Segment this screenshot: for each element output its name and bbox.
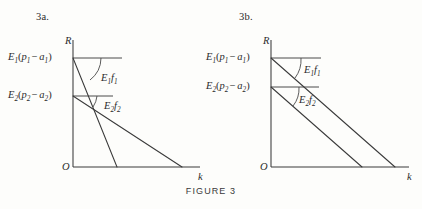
level-label-e2-3a: E2(p2−a2)	[8, 89, 52, 103]
x-axis-label-3b: k	[407, 171, 412, 182]
figure-page: 3a. R O k E1(p1−a1)	[0, 0, 422, 209]
level-e2-close-paren: )	[246, 80, 250, 91]
angle-e2f2-sub2: 2	[117, 106, 121, 114]
x-axis-label-3a: k	[198, 171, 203, 182]
level-e1-close-paren: )	[246, 51, 250, 62]
angle-e2f2-sub2: 2	[312, 100, 316, 108]
panel-3a: 3a. R O k E1(p1−a1)	[0, 0, 211, 188]
panel-3b: 3b. R O k E1(p1−a1) E2(p2−a2)	[211, 0, 422, 188]
level-e2-operator: −	[228, 80, 237, 91]
angle-label-e1f1-3b: E1f1	[304, 64, 321, 78]
angle-arc-e1f1-3a	[90, 58, 101, 80]
angle-label-e1f1-3a: E1f1	[101, 72, 118, 86]
origin-label-3a: O	[62, 161, 70, 172]
schedule-line-e2f2-3a	[73, 96, 182, 167]
level-e2-close-paren: )	[48, 89, 52, 100]
angle-e1f1-sub2: 1	[317, 70, 321, 78]
level-e1-close-paren: )	[48, 51, 52, 62]
origin-label-3b: O	[260, 161, 268, 172]
angle-label-e2f2-3a: E2f2	[104, 100, 121, 114]
y-axis-label-3b: R	[262, 35, 270, 46]
angle-e1f1-sub2: 1	[114, 78, 118, 86]
angle-arc-e1f1-3b	[295, 58, 301, 78]
level-label-e1-3a: E1(p1−a1)	[8, 51, 52, 65]
level-label-e1-3b: E1(p1−a1)	[206, 51, 250, 65]
schedule-line-e1f1-3b	[271, 58, 395, 167]
level-e2-operator: −	[30, 89, 39, 100]
figure-caption: FIGURE 3	[0, 186, 422, 196]
level-e1-operator: −	[30, 51, 39, 62]
angle-arc-e2f2-3a	[93, 96, 97, 107]
schedule-line-e2f2-3b	[271, 87, 362, 167]
angle-label-e2f2-3b: E2f2	[299, 94, 316, 108]
level-label-e2-3b: E2(p2−a2)	[206, 80, 250, 94]
y-axis-label-3a: R	[64, 35, 72, 46]
level-e1-operator: −	[228, 51, 237, 62]
